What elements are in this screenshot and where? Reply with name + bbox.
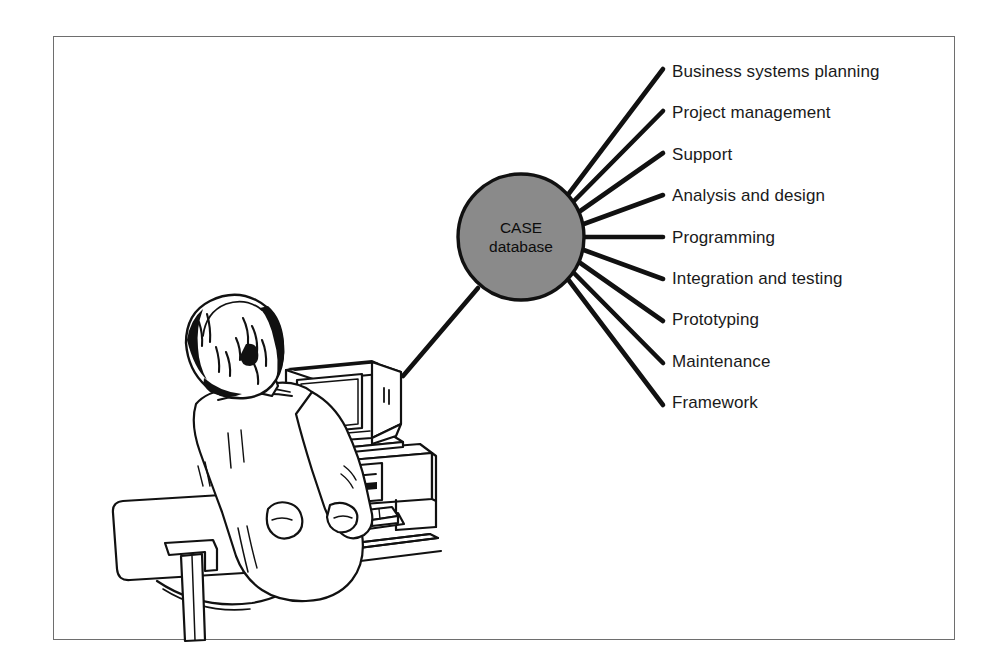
spoke-label[interactable]: Analysis and design — [672, 186, 825, 206]
spoke-label[interactable]: Prototyping — [672, 310, 759, 330]
diagram-canvas — [0, 0, 999, 669]
spoke-line-project-management — [571, 111, 663, 204]
spoke-line-business-systems-planning — [567, 69, 663, 196]
spoke-label[interactable]: Support — [672, 145, 732, 165]
spoke-label[interactable]: Integration and testing — [672, 269, 843, 289]
person-at-computer-illustration — [113, 295, 441, 641]
hub-circle[interactable] — [458, 174, 584, 300]
person-head — [186, 295, 284, 399]
spoke-line-framework — [567, 278, 663, 405]
spoke-line-maintenance — [571, 270, 663, 363]
spoke-label[interactable]: Programming — [672, 228, 775, 248]
spoke-label[interactable]: Business systems planning — [672, 62, 880, 82]
hub-to-workstation-connector — [403, 288, 478, 376]
spoke-label[interactable]: Maintenance — [672, 352, 770, 372]
figure-root: CASE database Business systems planningP… — [0, 0, 999, 669]
spoke-label[interactable]: Project management — [672, 103, 831, 123]
spoke-label[interactable]: Framework — [672, 393, 758, 413]
